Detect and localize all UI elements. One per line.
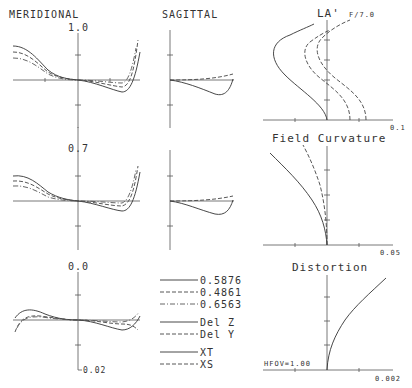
field-label-0-0: 0.0	[68, 261, 89, 272]
distortion-scale: 0.002	[375, 375, 401, 383]
ray-fan-scale-label: 0.02	[83, 366, 106, 375]
legend: 0.5876 0.4861 0.6563 Del Z Del Y XT XS	[160, 275, 242, 370]
la-scale: 0.1	[390, 124, 406, 132]
la-title: LA'	[317, 7, 340, 20]
distortion-title: Distortion	[292, 261, 368, 274]
sagittal-header: SAGITTAL	[162, 9, 218, 20]
aberration-charts: MERIDIONAL SAGITTAL 1.0 0.7	[0, 0, 412, 388]
legend-0-4861: 0.4861	[200, 287, 242, 298]
la-fnumber: F/7.0	[349, 11, 375, 19]
meridional-fan-0-7: 0.7	[13, 127, 140, 250]
legend-del-z: Del Z	[200, 317, 235, 328]
field-curvature-plot: Field Curvature 0.05	[263, 132, 401, 257]
meridional-header: MERIDIONAL	[9, 9, 79, 20]
field-curvature-scale: 0.05	[380, 249, 401, 257]
longitudinal-aberration-plot: LA' F/7.0 0.1	[263, 7, 406, 132]
field-label-1-0: 1.0	[68, 22, 89, 33]
legend-xt: XT	[200, 347, 214, 358]
meridional-fan-0-0: 0.0 0.02	[13, 261, 140, 375]
sagittal-fan-1-0	[167, 30, 234, 128]
field-curvature-title: Field Curvature	[272, 132, 386, 145]
field-label-0-7: 0.7	[68, 143, 89, 154]
legend-0-5876: 0.5876	[200, 275, 242, 286]
legend-del-y: Del Y	[200, 329, 235, 340]
meridional-fan-1-0: 1.0	[13, 22, 140, 128]
legend-xs: XS	[200, 359, 214, 370]
distortion-plot: Distortion HFOV=1.00 0.002	[263, 261, 401, 383]
hfov-label: HFOV=1.00	[264, 360, 311, 368]
sagittal-fan-0-7	[167, 150, 234, 250]
legend-0-6563: 0.6563	[200, 299, 242, 310]
